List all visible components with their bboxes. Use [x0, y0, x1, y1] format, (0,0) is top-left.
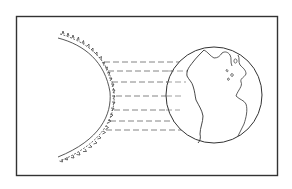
earth-globe-icon	[166, 47, 262, 143]
sun-earth-diagram	[0, 0, 292, 189]
diagram-canvas	[0, 0, 292, 189]
